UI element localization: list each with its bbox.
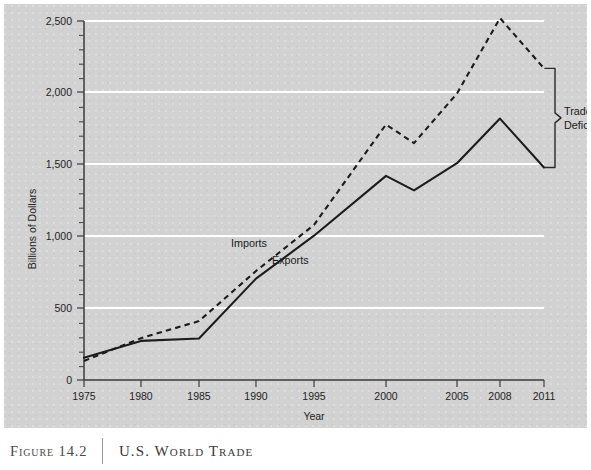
trade-deficits-label-line2: Deficits bbox=[564, 119, 587, 131]
y-tick-label-0: 0 bbox=[66, 374, 72, 386]
y-tick-label-2500: 2,500 bbox=[46, 15, 72, 27]
axes bbox=[84, 21, 544, 380]
caption-divider bbox=[102, 438, 103, 464]
x-tick-label-1995: 1995 bbox=[302, 390, 326, 402]
x-tick-label-1975: 1975 bbox=[72, 390, 96, 402]
y-tick-label-2000: 2,000 bbox=[46, 86, 72, 98]
x-tick-label-2005: 2005 bbox=[445, 390, 469, 402]
x-tick-label-2000: 2000 bbox=[374, 390, 398, 402]
figure-caption: Figure 14.2 U.S. World Trade bbox=[4, 436, 587, 466]
x-tick-label-1980: 1980 bbox=[129, 390, 153, 402]
figure-root: 2,500 2,000 1,500 1,000 500 0 1975 1980 … bbox=[0, 0, 591, 470]
y-axis-tick-labels: 2,500 2,000 1,500 1,000 500 0 bbox=[46, 15, 72, 386]
y-axis-major-ticks bbox=[77, 21, 84, 380]
x-tick-label-2008: 2008 bbox=[488, 390, 512, 402]
figure-number-label: Figure 14.2 bbox=[4, 443, 88, 460]
x-tick-label-2011: 2011 bbox=[533, 390, 556, 402]
y-tick-label-500: 500 bbox=[54, 302, 72, 314]
series-label-imports: Imports bbox=[231, 237, 268, 249]
series-line-imports bbox=[84, 18, 544, 361]
chart-panel: 2,500 2,000 1,500 1,000 500 0 1975 1980 … bbox=[4, 4, 587, 428]
x-tick-label-1990: 1990 bbox=[244, 390, 268, 402]
series-label-exports: Exports bbox=[272, 254, 309, 266]
x-axis-ticks bbox=[84, 380, 544, 387]
trade-deficits-label-line1: Trade bbox=[564, 105, 587, 117]
x-tick-label-1985: 1985 bbox=[187, 390, 211, 402]
x-axis-tick-labels: 1975 1980 1985 1990 1995 2000 2005 2008 … bbox=[72, 390, 555, 402]
x-axis-title: Year bbox=[303, 410, 325, 422]
y-tick-label-1500: 1,500 bbox=[46, 158, 72, 170]
y-tick-label-1000: 1,000 bbox=[46, 230, 72, 242]
y-axis-title: Billions of Dollars bbox=[26, 189, 38, 270]
trade-deficits-brace bbox=[545, 68, 561, 167]
chart-plot-area: 2,500 2,000 1,500 1,000 500 0 1975 1980 … bbox=[4, 4, 587, 428]
figure-title-label: U.S. World Trade bbox=[119, 443, 253, 460]
series-line-exports bbox=[84, 119, 544, 358]
